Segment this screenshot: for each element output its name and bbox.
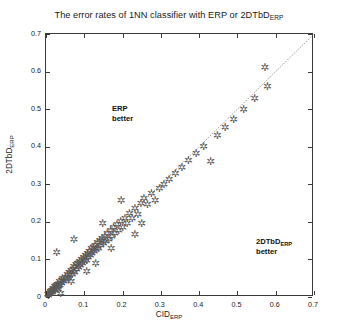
y-axis-tick-right	[308, 72, 312, 73]
x-axis-tick-label: 0.3	[145, 300, 175, 309]
y-axis-tick	[46, 34, 50, 35]
x-axis-tick	[276, 291, 277, 295]
annotation-2dtbd-better: 2DTbDERP better	[256, 237, 292, 257]
x-axis-tick-top	[237, 34, 238, 38]
x-axis-label-subscript: ERP	[170, 314, 182, 320]
y-axis-tick-label: 0.1	[15, 254, 41, 263]
x-axis-tick-label: 0.7	[298, 300, 328, 309]
x-axis-tick	[161, 291, 162, 295]
chart-title: The error rates of 1NN classifier with E…	[0, 10, 338, 20]
y-axis-tick-label: 0	[15, 292, 41, 301]
y-axis-label-main: 2DTbD	[5, 148, 14, 174]
x-axis-tick-top	[276, 34, 277, 38]
x-axis-label-main: CID	[156, 310, 170, 319]
annotation-2dtbd-better-label: better	[256, 247, 277, 256]
y-axis-tick	[46, 147, 50, 148]
y-axis-tick-right	[308, 297, 312, 298]
x-axis-tick-top	[314, 34, 315, 38]
identity-reference-line	[46, 34, 314, 297]
x-axis-tick	[123, 291, 124, 295]
y-axis-tick-label: 0.7	[15, 29, 41, 38]
x-axis-tick-label: 0.2	[107, 300, 137, 309]
x-axis-tick-label: 0.4	[183, 300, 213, 309]
y-axis-label-subscript: ERP	[9, 135, 15, 147]
x-axis-tick-label: 0	[30, 300, 60, 309]
annotation-2dtbd-subscript: ERP	[280, 241, 292, 247]
y-axis-tick-right	[308, 147, 312, 148]
chart-title-main: The error rates of 1NN classifier with E…	[54, 10, 269, 20]
y-axis-tick	[46, 259, 50, 260]
y-axis-tick-right	[308, 259, 312, 260]
x-axis-tick	[314, 291, 315, 295]
x-axis-tick-top	[123, 34, 124, 38]
annotation-erp-label: ERP	[112, 104, 128, 113]
annotation-erp-better-label: better	[112, 114, 133, 123]
annotation-2dtbd-label: 2DTbD	[256, 237, 280, 246]
x-axis-tick-label: 0.1	[68, 300, 98, 309]
x-axis-tick-label: 0.6	[260, 300, 290, 309]
y-axis-tick-right	[308, 222, 312, 223]
scatter-plot-figure: The error rates of 1NN classifier with E…	[0, 0, 338, 330]
y-axis-tick	[46, 222, 50, 223]
x-axis-tick	[46, 291, 47, 295]
x-axis-tick	[237, 291, 238, 295]
y-axis-tick	[46, 72, 50, 73]
x-axis-tick-label: 0.5	[221, 300, 251, 309]
x-axis-tick	[84, 291, 85, 295]
x-axis-tick-top	[84, 34, 85, 38]
y-axis-label: 2DTbDERP	[5, 120, 14, 190]
y-axis-tick-label: 0.4	[15, 141, 41, 150]
chart-title-subscript: ERP	[270, 14, 284, 21]
x-axis-tick	[199, 291, 200, 295]
y-axis-tick	[46, 297, 50, 298]
y-axis-tick-label: 0.2	[15, 216, 41, 225]
y-axis-tick-right	[308, 184, 312, 185]
x-axis-tick-top	[161, 34, 162, 38]
y-axis-tick-label: 0.6	[15, 66, 41, 75]
y-axis-tick-right	[308, 34, 312, 35]
y-axis-tick-right	[308, 109, 312, 110]
x-axis-tick-top	[199, 34, 200, 38]
x-axis-label: CIDERP	[0, 310, 338, 319]
y-axis-tick-label: 0.5	[15, 104, 41, 113]
y-axis-tick-label: 0.3	[15, 179, 41, 188]
plot-area: ✲✲✲✲✲✲✲✲✲✲✲✲✲✲✲✲✲✲✲✲✲✲✲✲✲✲✲✲✲✲✲✲✲✲✲✲✲✲✲✲…	[45, 33, 313, 296]
annotation-erp-better: ERP better	[112, 104, 133, 124]
y-axis-tick	[46, 184, 50, 185]
y-axis-tick	[46, 109, 50, 110]
